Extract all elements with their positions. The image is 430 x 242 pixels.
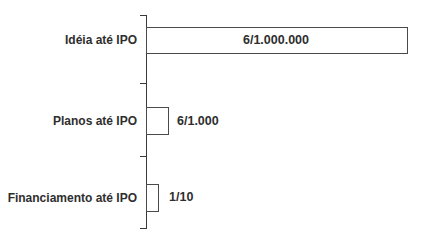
value-label-financing-to-ipo: 1/10 — [169, 190, 193, 204]
horizontal-bar-chart: Idéia até IPO 6/1.000.000 Planos até IPO… — [0, 0, 430, 242]
y-axis-tick — [140, 15, 147, 16]
bar-plans-to-ipo — [146, 107, 169, 135]
value-label-plans-to-ipo: 6/1.000 — [177, 114, 219, 128]
y-axis-tick — [140, 83, 147, 84]
category-label-idea-to-ipo: Idéia até IPO — [65, 33, 137, 47]
category-label-plans-to-ipo: Planos até IPO — [53, 114, 137, 128]
category-label-financing-to-ipo: Financiamento até IPO — [8, 191, 137, 205]
y-axis-tick — [140, 228, 147, 229]
value-label-idea-to-ipo: 6/1.000.000 — [243, 33, 309, 47]
y-axis-tick — [140, 156, 147, 157]
bar-financing-to-ipo — [146, 184, 159, 212]
